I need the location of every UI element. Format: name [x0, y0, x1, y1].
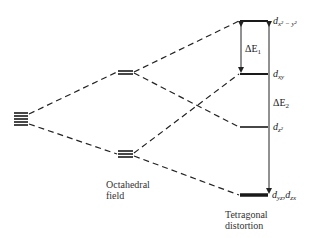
caption-octahedral-line2: field [106, 190, 124, 201]
connectors [29, 21, 239, 195]
caption-tetragonal-line2: distortion [225, 220, 263, 231]
caption-tetragonal-line1: Tetragonal [225, 209, 268, 220]
free-ion-level [14, 113, 28, 125]
crystal-field-diagram: ΔE1 ΔE2 dx² − y² dxy dz² dyz,dzx Octahed… [0, 0, 311, 238]
octahedral-eg-level [118, 71, 133, 74]
label-dyz-dzx: dyz,dzx [272, 189, 297, 202]
label-dxy: dxy [273, 68, 285, 81]
label-dx2-y2: dx² − y² [273, 15, 298, 28]
delta-e1-label: ΔE1 [245, 43, 262, 56]
label-dz2: dz² [273, 121, 284, 134]
octahedral-t2g-level [118, 151, 133, 157]
caption-octahedral-line1: Octahedral [106, 179, 150, 190]
delta-e2-label: ΔE2 [273, 97, 290, 110]
